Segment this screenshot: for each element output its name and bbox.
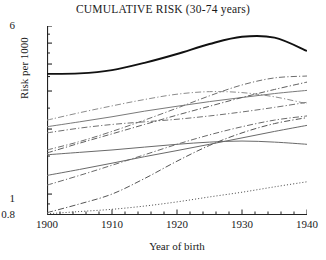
chart-svg [47, 26, 307, 215]
chart-title: CUMULATIVE RISK (30-74 years) [0, 3, 326, 15]
y-tick-label-6: 6 [0, 20, 15, 31]
data-series-group [47, 36, 307, 214]
y-axis-label: Risk per 1000 [18, 8, 30, 128]
x-tick-label-1930: 1930 [222, 219, 262, 230]
series-line-series-10 [47, 118, 307, 213]
y-tick-label-0.8: 0.8 [0, 209, 15, 220]
x-tick-label-1940: 1940 [287, 219, 326, 230]
series-line-series-5 [47, 102, 307, 133]
y-tick-label-1: 1 [0, 193, 15, 204]
series-line-series-2 [47, 76, 307, 150]
series-line-series-11 [47, 182, 307, 214]
x-tick-label-1900: 1900 [27, 219, 67, 230]
x-tick-label-1920: 1920 [157, 219, 197, 230]
series-line-series-8 [47, 125, 307, 175]
x-axis-label: Year of birth [47, 240, 307, 252]
series-line-series-6 [47, 82, 307, 153]
chart-root: CUMULATIVE RISK (30-74 years) Risk per 1… [0, 0, 326, 260]
x-tick-label-1910: 1910 [92, 219, 132, 230]
series-line-series-7 [47, 141, 307, 155]
series-line-series-1 [47, 36, 307, 74]
plot-area [47, 26, 307, 215]
